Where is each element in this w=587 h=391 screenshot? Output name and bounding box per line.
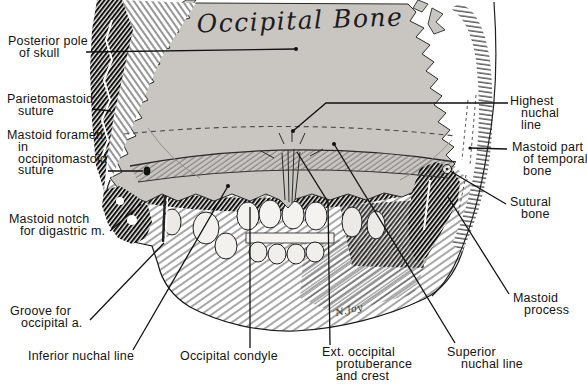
leader-dot-superior-nuchal xyxy=(332,142,336,146)
leader-dot-inferior-nuchal xyxy=(226,184,230,188)
label-line: process xyxy=(513,305,569,317)
label-mastoid-part-temporal: Mastoid part of temporal bone xyxy=(512,142,587,177)
label-posterior-pole: Posterior pole of skull xyxy=(8,36,88,60)
label-line: Inferior nuchal line xyxy=(28,351,134,363)
label-line: for digastric m. xyxy=(9,226,105,238)
figure-occipital-bone: Occipital Bone N.Joy Posterior pole of s… xyxy=(0,0,587,391)
label-line: and crest xyxy=(322,371,412,383)
leader-dot-posterior-pole xyxy=(294,47,298,51)
label-line: Occipital condyle xyxy=(180,351,278,363)
label-inferior-nuchal-line: Inferior nuchal line xyxy=(28,351,134,363)
leader-dot-mastoid-part xyxy=(468,146,471,149)
label-occipital-condyle: Occipital condyle xyxy=(180,351,278,363)
label-superior-nuchal-line: Superior nuchal line xyxy=(447,347,523,371)
label-parietomastoid-suture: Parietomastoid suture xyxy=(7,94,93,118)
label-mastoid-process: Mastoid process xyxy=(513,293,569,317)
label-line: bone xyxy=(510,209,551,221)
label-sutural-bone: Sutural bone xyxy=(510,197,551,221)
leader-mastoid-part-temporal xyxy=(470,148,507,149)
label-line: nuchal line xyxy=(447,359,523,371)
label-line: of skull xyxy=(8,48,88,60)
label-line: suture xyxy=(7,106,93,118)
skull-illustration xyxy=(0,0,587,391)
label-mastoid-notch: Mastoid notch for digastric m. xyxy=(9,214,105,238)
label-groove-occipital-a: Groove for occipital a. xyxy=(10,306,82,330)
label-mastoid-foramen: Mastoid foramen in occipitomastoid sutur… xyxy=(7,130,107,177)
label-line: suture xyxy=(7,165,107,177)
label-line: bone xyxy=(512,166,587,178)
label-highest-nuchal-line: Highest nuchal line xyxy=(510,96,559,131)
leader-groove-occipital-a xyxy=(90,243,164,320)
label-ext-occipital-protuberance: Ext. occipital protuberance and crest xyxy=(322,347,412,382)
leader-dot-highest-nuchal xyxy=(291,129,295,133)
label-line: line xyxy=(510,120,559,132)
label-line: occipital a. xyxy=(10,318,82,330)
